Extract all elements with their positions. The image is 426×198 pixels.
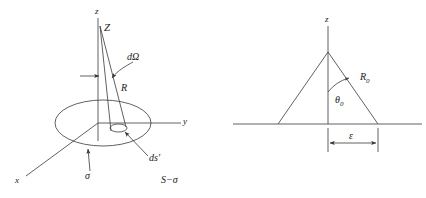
left-y-axis-label: y bbox=[183, 117, 187, 126]
surface-element-label: ds′ bbox=[149, 153, 160, 163]
radius-R0-label: R0 bbox=[360, 72, 370, 85]
solid-angle-label: dΩ bbox=[127, 52, 139, 62]
left-x-axis-label: x bbox=[15, 176, 19, 185]
figure-caption: S−σ bbox=[161, 175, 178, 185]
cone-side-right bbox=[328, 52, 378, 124]
left-x-axis bbox=[26, 123, 98, 176]
ds-prime-leader bbox=[125, 132, 148, 156]
theta-angle-arc bbox=[328, 78, 349, 92]
cone-edge-left bbox=[100, 26, 111, 131]
radius-R0-subscript: 0 bbox=[366, 77, 370, 85]
cone-side-left bbox=[278, 52, 328, 124]
surface-charge-label: σ bbox=[85, 171, 90, 181]
angle-theta0-subscript: 0 bbox=[340, 100, 344, 108]
epsilon-dimension-label: ε bbox=[349, 131, 353, 141]
right-z-axis-label: z bbox=[325, 15, 329, 24]
sigma-leader bbox=[88, 149, 90, 171]
angle-theta0-label: θ0 bbox=[335, 95, 343, 108]
physics-figure: z Z dΩ R y ds′ σ x S−σ z R0 θ0 ε bbox=[0, 0, 426, 198]
d-omega-leader bbox=[112, 62, 133, 78]
distance-R-label: R bbox=[121, 83, 127, 93]
surface-element-ellipse bbox=[110, 124, 127, 132]
figure-drawing bbox=[0, 0, 426, 198]
left-z-axis-label: z bbox=[95, 7, 99, 16]
field-point-label: Z bbox=[104, 22, 110, 33]
